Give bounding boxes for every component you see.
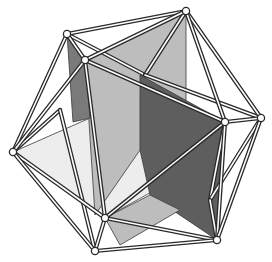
- vertex-B: [81, 56, 88, 63]
- strut-G-H: [95, 218, 105, 251]
- golden-rectangle-planes: [13, 11, 225, 245]
- vertex-G: [101, 214, 108, 221]
- icosahedron-svg: [0, 0, 272, 262]
- vertex-C: [182, 7, 189, 14]
- vertex-E: [257, 114, 264, 121]
- strut-H-I: [95, 240, 217, 251]
- vertex-A: [63, 30, 70, 37]
- vertex-F: [9, 148, 16, 155]
- vertex-H: [91, 247, 98, 254]
- vertex-I: [213, 236, 220, 243]
- vertex-D: [221, 118, 228, 125]
